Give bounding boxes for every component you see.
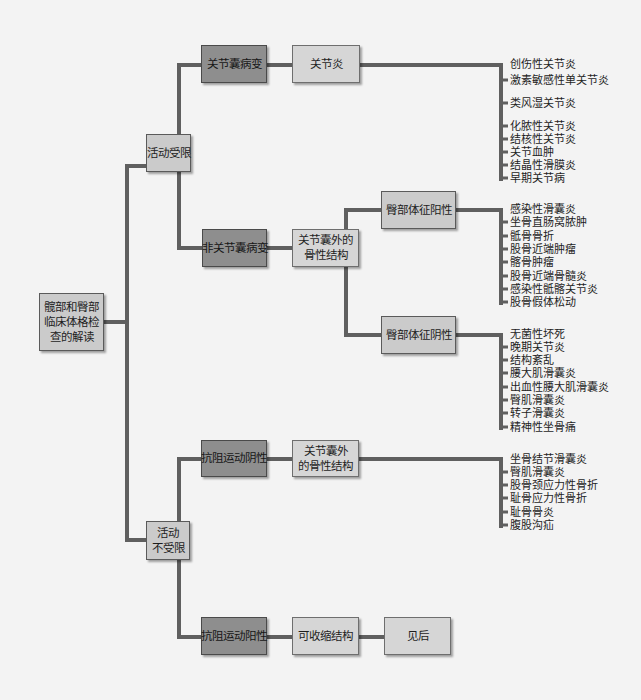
node-extracapsular-bony-structure: 关节囊外的 骨性结构	[292, 229, 359, 267]
node-restricted-motion: 活动受限	[146, 134, 191, 172]
hip-buttock-exam-flowchart: 髋部和臀部 临床体格检 查的解读 活动受限 关节囊病变 关节炎 非关节囊病变 关…	[0, 0, 641, 700]
list-item: 耻骨应力性骨折	[510, 491, 587, 505]
node-label-line-1: 活动	[157, 526, 179, 541]
root-line-2: 临床体格检	[44, 315, 99, 330]
list-item: 腹股沟疝	[510, 518, 554, 532]
list-item: 臀肌滑囊炎	[510, 465, 565, 479]
node-label: 关节炎	[310, 57, 343, 72]
node-capsular-lesion: 关节囊病变	[201, 45, 267, 83]
node-label: 关节囊病变	[207, 57, 262, 72]
list-item: 结晶性滑膜炎	[510, 158, 576, 172]
node-contractile-structure: 可收缩结构	[292, 617, 359, 655]
list-item: 腰大肌滑囊炎	[510, 366, 576, 380]
list-item: 化脓性关节炎	[510, 119, 576, 133]
list-item: 髂骨肿瘤	[510, 255, 554, 269]
node-label: 臀部体征阴性	[386, 328, 452, 343]
list-item: 股骨近端骨髓炎	[510, 269, 587, 283]
list-item: 耻骨骨炎	[510, 505, 554, 519]
list-item: 晚期关节炎	[510, 340, 565, 354]
list-item: 关节血肿	[510, 145, 554, 159]
list-item: 结核性关节炎	[510, 132, 576, 146]
node-noncapsular-lesion: 非关节囊病变	[202, 229, 267, 267]
list-item: 精神性坐骨痛	[510, 420, 576, 434]
node-unrestricted-motion: 活动 不受限	[146, 521, 190, 560]
list-item: 激素敏感性单关节炎	[510, 73, 609, 87]
node-buttock-sign-negative: 臀部体征阴性	[381, 316, 456, 354]
node-label: 活动受限	[147, 146, 191, 161]
node-label: 见后	[407, 629, 429, 644]
node-label-line-1: 关节囊外	[304, 444, 348, 459]
list-item: 转子滑囊炎	[510, 406, 565, 420]
node-label: 抗阻运动阳性	[201, 629, 267, 644]
list-item: 出血性腰大肌滑囊炎	[510, 380, 609, 394]
list-item: 股骨近端肿瘤	[510, 242, 576, 256]
node-label-line-2: 骨性结构	[304, 248, 348, 263]
list-item: 坐骨结节滑囊炎	[510, 452, 587, 466]
node-label-line-1: 关节囊外的	[298, 233, 353, 248]
node-label: 抗阻运动阴性	[201, 451, 267, 466]
node-label: 可收缩结构	[298, 629, 353, 644]
node-label: 臀部体征阳性	[386, 203, 452, 218]
list-item: 早期关节病	[510, 171, 565, 185]
node-resisted-negative: 抗阻运动阴性	[201, 440, 267, 477]
list-item: 创伤性关节炎	[510, 57, 576, 71]
node-extracapsular-bony-structure-2: 关节囊外 的骨性结构	[292, 440, 359, 477]
list-item: 骶骨骨折	[510, 229, 554, 243]
list-item: 类风湿关节炎	[510, 96, 576, 110]
list-item: 无菌性坏死	[510, 327, 565, 341]
list-item: 臀肌滑囊炎	[510, 393, 565, 407]
list-item: 感染性骶髂关节炎	[510, 282, 598, 296]
root-line-3: 查的解读	[50, 330, 94, 345]
node-label: 非关节囊病变	[202, 241, 268, 256]
node-resisted-positive: 抗阻运动阳性	[201, 617, 267, 655]
list-item: 坐骨直肠窝脓肿	[510, 215, 587, 229]
node-label-line-2: 的骨性结构	[298, 459, 353, 474]
node-label-line-2: 不受限	[152, 541, 185, 556]
node-arthritis: 关节炎	[292, 45, 360, 83]
root-line-1: 髋部和臀部	[44, 300, 99, 315]
node-see-later: 见后	[384, 617, 451, 655]
list-item: 结构紊乱	[510, 353, 554, 367]
root-node: 髋部和臀部 临床体格检 查的解读	[39, 293, 104, 351]
list-item: 股骨假体松动	[510, 295, 576, 309]
list-item: 感染性滑囊炎	[510, 202, 576, 216]
list-item: 股骨颈应力性骨折	[510, 478, 598, 492]
node-buttock-sign-positive: 臀部体征阳性	[381, 191, 456, 229]
